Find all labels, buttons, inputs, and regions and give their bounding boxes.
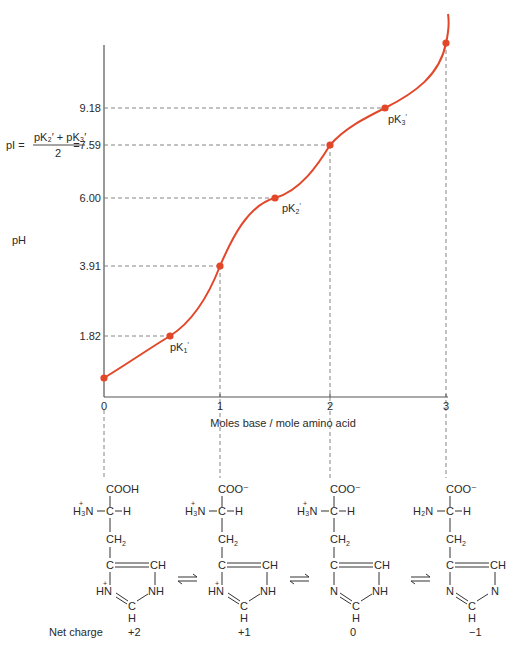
svg-text:CH: CH [374, 559, 390, 571]
x-tick-label: 0 [101, 400, 107, 412]
y-tick-label: 1.82 [80, 330, 101, 342]
svg-text:CH2: CH2 [330, 533, 350, 547]
svg-text:CH: CH [150, 559, 166, 571]
structure-2: COO⁻ H₃N + C H CH2 C CH HN + NH C H [185, 483, 278, 624]
data-point [271, 194, 278, 201]
svg-text:CH2: CH2 [446, 533, 466, 547]
pk3-label: pK3′ [388, 113, 407, 126]
data-point [326, 141, 333, 148]
svg-text:COO⁻: COO⁻ [446, 483, 477, 495]
svg-text:H₃N: H₃N [185, 505, 205, 517]
data-point [166, 332, 173, 339]
svg-text:NH: NH [372, 585, 388, 597]
svg-text:H₃N: H₃N [297, 505, 317, 517]
svg-text:H: H [128, 612, 136, 624]
pk2-label: pK2′ [282, 202, 301, 215]
equilibrium-arrow-icon [290, 574, 309, 584]
structure-4: COO⁻ H₂N C H CH2 C CH N N C H [413, 483, 506, 624]
svg-text:COOH: COOH [106, 483, 139, 495]
svg-text:C: C [330, 505, 338, 517]
svg-text:H: H [347, 505, 355, 517]
net-charge-value: +1 [238, 626, 251, 638]
svg-text:COO⁻: COO⁻ [330, 483, 361, 495]
y-axis-label: pH [12, 234, 26, 246]
pk1-label: pK1′ [170, 341, 189, 354]
svg-text:CH2: CH2 [218, 533, 238, 547]
svg-text:H₃N: H₃N [73, 505, 93, 517]
svg-text:+: + [79, 500, 83, 507]
svg-text:+: + [103, 580, 107, 587]
svg-text:C: C [330, 559, 338, 571]
svg-text:C: C [352, 600, 360, 612]
svg-text:C: C [106, 505, 114, 517]
svg-text:+: + [191, 500, 195, 507]
pi-denominator: 2 [55, 147, 61, 159]
svg-text:NH: NH [260, 585, 276, 597]
svg-text:N: N [446, 585, 454, 597]
svg-text:H: H [240, 612, 248, 624]
net-charge-label: Net charge [49, 626, 103, 638]
svg-text:C: C [240, 600, 248, 612]
svg-text:C: C [468, 600, 476, 612]
svg-text:C: C [128, 600, 136, 612]
svg-text:C: C [446, 505, 454, 517]
svg-text:H: H [463, 505, 471, 517]
data-point [216, 262, 223, 269]
svg-text:C: C [106, 559, 114, 571]
y-tick-label: 6.00 [80, 192, 101, 204]
svg-text:C: C [218, 505, 226, 517]
x-tick-label: 2 [327, 400, 333, 412]
svg-text:H: H [123, 505, 131, 517]
svg-text:H: H [352, 612, 360, 624]
net-charge-value: −1 [469, 626, 482, 638]
svg-text:N: N [330, 585, 338, 597]
x-tick-label: 1 [217, 400, 223, 412]
structure-3: COO⁻ H₃N + C H CH2 C CH N NH C H [297, 483, 390, 624]
svg-text:C: C [218, 559, 226, 571]
data-point [381, 104, 388, 111]
svg-text:CH2: CH2 [106, 533, 126, 547]
svg-text:CH: CH [490, 559, 506, 571]
svg-text:H₂N: H₂N [413, 505, 433, 517]
svg-text:+: + [215, 580, 219, 587]
svg-text:CH: CH [262, 559, 278, 571]
equilibrium-arrow-icon [411, 574, 430, 584]
y-tick-label: 3.91 [80, 260, 101, 272]
svg-text:+: + [303, 500, 307, 507]
net-charge-value: +2 [128, 626, 141, 638]
pi-label: pI = [6, 139, 25, 151]
svg-text:H: H [235, 505, 243, 517]
svg-text:H: H [468, 612, 476, 624]
x-tick-label: 3 [443, 400, 449, 412]
svg-text:NH: NH [148, 585, 164, 597]
equilibrium-arrow-icon [178, 574, 197, 584]
y-tick-label: 9.18 [80, 102, 101, 114]
structure-1: COOH H₃N + C H CH2 C CH HN + NH C H [73, 483, 166, 624]
svg-text:COO⁻: COO⁻ [218, 483, 249, 495]
svg-text:C: C [446, 559, 454, 571]
data-point [100, 374, 107, 381]
titration-chart: 9.18 =7.59 6.00 3.91 1.82 pI = pK₂′ + pK… [0, 0, 516, 655]
pi-numerator: pK₂′ + pK₃′ [34, 131, 86, 143]
x-axis-label: Moles base / mole amino acid [210, 417, 356, 429]
net-charge-value: 0 [350, 626, 356, 638]
data-point [442, 39, 449, 46]
svg-text:N: N [491, 585, 499, 597]
